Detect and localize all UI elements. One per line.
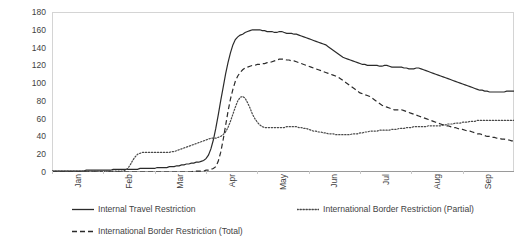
x-axis-tick-label: Jun (330, 174, 339, 188)
x-axis-tick-mark (411, 171, 412, 174)
legend-swatch-solid (72, 206, 94, 213)
legend-label: International Border Restriction (Total) (98, 227, 243, 236)
x-axis-tick-mark (309, 171, 310, 174)
y-axis-tick-label: 60 (37, 114, 46, 123)
legend-item[interactable]: International Border Restriction (Total) (72, 227, 243, 236)
y-axis-tick-label: 0 (41, 168, 46, 177)
line-chart: 020406080100120140160180 JanFebMarAprMay… (0, 0, 520, 247)
chart-legend: Internal Travel RestrictionInternational… (52, 203, 520, 245)
legend-item[interactable]: International Border Restriction (Partia… (297, 205, 474, 214)
y-axis-tick-label: 20 (37, 150, 46, 159)
x-axis-tick-mark (360, 171, 361, 174)
series-line-0 (52, 30, 514, 171)
x-axis-tick-label: Jan (73, 174, 82, 188)
x-axis-tick-label: May (279, 174, 288, 190)
y-axis-tick-label: 40 (37, 132, 46, 141)
y-axis-tick-label: 100 (32, 79, 46, 88)
x-axis: JanFebMarAprMayJunJulAugSep (52, 173, 514, 199)
x-axis-tick-mark (103, 171, 104, 174)
y-axis: 020406080100120140160180 (0, 12, 46, 172)
x-axis-tick-label: Jul (381, 174, 390, 185)
legend-label: Internal Travel Restriction (98, 205, 195, 214)
plot-series-layer (52, 12, 514, 172)
series-line-2 (52, 59, 514, 172)
legend-label: International Border Restriction (Partia… (323, 205, 474, 214)
x-axis-tick-mark (257, 171, 258, 174)
x-axis-tick-mark (155, 171, 156, 174)
y-axis-tick-label: 160 (32, 26, 46, 35)
y-axis-tick-label: 120 (32, 61, 46, 70)
x-axis-tick-label: Sep (484, 174, 493, 189)
x-axis-tick-label: Aug (433, 174, 442, 189)
legend-swatch-dashed (72, 228, 94, 235)
y-axis-tick-label: 80 (37, 97, 46, 106)
x-axis-tick-label: Apr (227, 174, 236, 187)
x-axis-tick-mark (52, 171, 53, 174)
y-axis-tick-label: 180 (32, 8, 46, 17)
series-line-1 (52, 96, 514, 171)
x-axis-tick-label: Mar (176, 174, 185, 189)
legend-swatch-dotted (297, 206, 319, 213)
legend-item[interactable]: Internal Travel Restriction (72, 205, 195, 214)
x-axis-tick-mark (463, 171, 464, 174)
x-axis-tick-label: Feb (125, 174, 134, 189)
x-axis-tick-mark (206, 171, 207, 174)
y-axis-tick-label: 140 (32, 43, 46, 52)
